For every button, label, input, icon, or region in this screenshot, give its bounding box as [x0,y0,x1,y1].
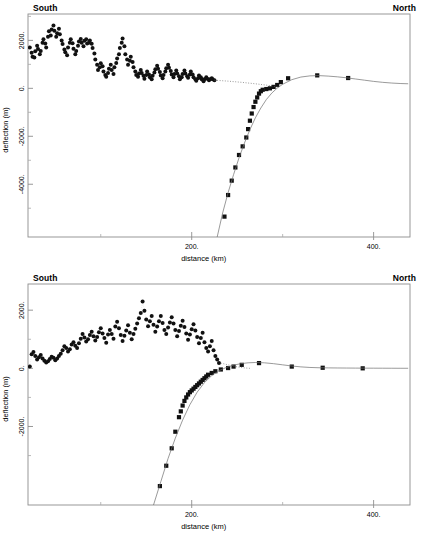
data-point-circle [157,319,161,323]
data-point-circle [93,58,97,62]
data-point-circle [137,316,141,320]
data-point-circle [122,334,126,338]
data-point-circle [91,46,95,50]
data-point-circle [73,52,77,56]
data-point-circle [39,49,43,53]
data-point-circle [97,330,101,334]
data-point-circle [204,346,208,350]
data-point-circle [33,354,37,358]
data-point-circle [202,340,206,344]
data-point-circle [115,320,119,324]
chart-panel-top: South North 2000.0.-2000.-4000.200.400.d… [0,0,424,270]
data-point-circle [129,55,133,59]
data-point-circle [126,323,130,327]
data-point-circle [109,63,113,67]
data-point-circle [28,46,32,50]
data-point-circle [38,52,42,56]
data-point-circle [197,341,201,345]
data-point-circle [156,67,160,71]
data-point-circle [121,339,125,343]
data-point-square [222,215,226,219]
data-point-square [261,88,265,92]
data-point-circle [141,299,145,303]
data-point-circle [54,35,58,39]
orientation-label-south-top: South [33,3,58,13]
data-point-circle [60,38,64,42]
data-point-circle [58,32,62,36]
x-tick-label: 400. [367,511,381,518]
data-point-circle [217,361,221,365]
fit-curve [154,363,409,505]
data-point-circle [192,322,196,326]
data-point-circle [101,331,105,335]
data-point-circle [28,365,32,369]
data-point-square [271,85,275,89]
axis-ticks [28,16,374,240]
data-point-circle [43,41,47,45]
data-point-circle [82,336,86,340]
data-point-circle [201,331,205,335]
data-point-circle [99,326,103,330]
data-point-square [251,105,255,109]
data-point-circle [81,44,85,48]
data-point-circle [106,333,110,337]
data-point-circle [128,331,132,335]
data-point-circle [113,324,117,328]
y-tick-label: 2000. [18,301,25,319]
data-point-circle [159,314,163,318]
data-point-circle [101,64,105,68]
data-point-square [206,373,210,377]
data-point-circle [139,311,143,315]
data-point-circle [168,320,172,324]
data-point-circle [117,326,121,330]
data-point-circle [135,322,139,326]
data-point-circle [106,71,110,75]
data-point-circle [167,66,171,70]
data-point-circle [120,41,124,45]
data-point-circle [102,336,106,340]
y-axis-title: deflection (m) [1,376,10,422]
data-point-circle [90,330,94,334]
data-point-circle [44,46,48,50]
data-point-circle [144,317,148,321]
data-point-circle [110,332,114,336]
data-point-circle [91,334,95,338]
data-point-circle [101,70,105,74]
data-point-circle [68,347,72,351]
data-point-square [255,95,259,99]
x-tick-label: 200. [185,511,199,518]
data-point-circle [132,65,136,69]
data-point-circle [163,70,167,74]
data-point-circle [210,339,214,343]
data-point-circle [117,52,121,56]
data-point-circle [153,330,157,334]
data-point-circle [142,77,146,81]
data-point-circle [66,46,70,50]
data-point-circle [104,341,108,345]
orientation-label-north-bottom: North [393,273,416,283]
data-point-circle [182,325,186,329]
data-point-circle [133,327,137,331]
data-point-circle [173,328,177,332]
data-point-circle [130,337,134,341]
data-point-circle [71,340,75,344]
data-point-circle [76,44,80,48]
data-point-circle [93,338,97,342]
data-point-square [253,100,257,104]
data-point-square [286,76,290,80]
data-point-square [181,403,185,407]
data-point-circle [79,37,83,41]
fit-curve [217,76,408,237]
data-point-circle [51,24,55,28]
data-point-circle [84,37,88,41]
data-point-circle [212,348,216,352]
data-point-circle [81,332,85,336]
data-point-square [264,87,268,91]
data-layer [28,270,408,505]
data-point-circle [188,333,192,337]
data-point-circle [118,46,122,50]
y-tick-label: 0. [18,85,25,91]
data-point-circle [121,36,125,40]
data-point-circle [123,52,127,56]
data-point-circle [77,341,81,345]
